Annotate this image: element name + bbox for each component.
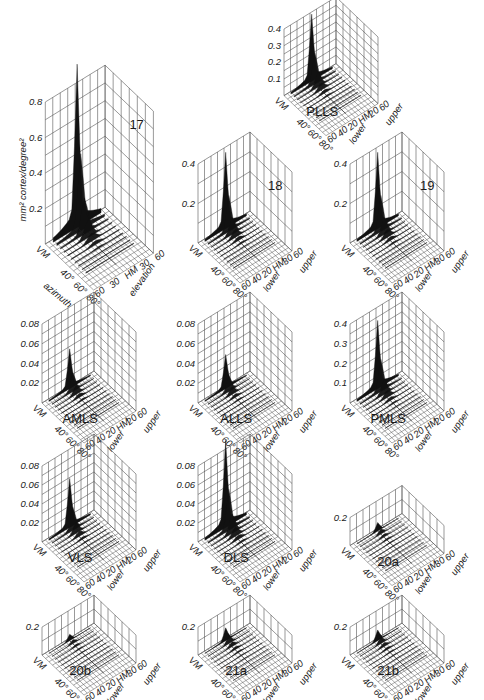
panel-title: PMLS bbox=[370, 411, 406, 426]
z-tick-label: 0.02 bbox=[21, 517, 40, 528]
vm-label: VM bbox=[339, 402, 357, 420]
z-tick-label: 0.1 bbox=[268, 73, 281, 84]
grid-lines bbox=[350, 292, 444, 411]
surface-plot-21b: 0.2VM40°60°80°6030HM204060upperlower21b bbox=[328, 590, 468, 695]
vm-label: VM bbox=[31, 654, 49, 672]
panel-title: AMLS bbox=[62, 411, 98, 426]
vm-label: VM bbox=[187, 654, 205, 672]
z-tick-label: 0.2 bbox=[29, 203, 43, 214]
vm-label: VM bbox=[31, 541, 49, 559]
panel-title: DLS bbox=[224, 550, 250, 565]
surface-plot-19: 0.20.4VM40°60°80°6030HM204060upperlower1… bbox=[328, 150, 468, 300]
z-tick-label: 0.2 bbox=[334, 621, 348, 632]
z-tick-label: 0.2 bbox=[334, 512, 348, 523]
y-axis-label: mm² cortex/degree² bbox=[17, 138, 28, 222]
z-tick-label: 0.3 bbox=[334, 338, 348, 349]
magnification-surface bbox=[205, 152, 275, 268]
panel-title: 21a bbox=[225, 663, 247, 678]
vm-label: VM bbox=[273, 95, 291, 113]
z-tick-label: 0.6 bbox=[29, 132, 43, 143]
z-tick-label: 0.08 bbox=[177, 318, 196, 329]
magnification-surface bbox=[357, 152, 427, 268]
azimuth-axis-label: azimuth bbox=[42, 280, 75, 310]
surface-plot-pmls: 0.10.20.30.4VM40°60°80°6020HM204060upper… bbox=[328, 310, 468, 460]
z-tick-label: 0.2 bbox=[334, 198, 348, 209]
vm-label: VM bbox=[187, 402, 205, 420]
vm-label: VM bbox=[339, 654, 357, 672]
z-tick-label: 0.02 bbox=[21, 377, 40, 388]
z-tick-label: 0.02 bbox=[177, 517, 196, 528]
grid-lines bbox=[42, 292, 136, 411]
z-tick-label: 0.08 bbox=[177, 460, 196, 471]
vm-label: VM bbox=[187, 541, 205, 559]
z-tick-label: 0.4 bbox=[334, 318, 347, 329]
magnification-surface bbox=[53, 64, 133, 273]
z-tick-label: 0.8 bbox=[29, 96, 43, 107]
surface-plot-21a: 0.2VM40°60°80°6030HM204060upperlower21a bbox=[176, 590, 316, 695]
vm-label: VM bbox=[187, 242, 205, 260]
vm-label: VM bbox=[34, 243, 52, 261]
z-tick-label: 0.2 bbox=[334, 358, 348, 369]
z-tick-label: 0.4 bbox=[334, 158, 347, 169]
z-tick-label: 0.4 bbox=[29, 167, 42, 178]
panel-title: VLS bbox=[68, 550, 93, 565]
grid-lines bbox=[42, 434, 136, 550]
z-tick-label: 0.04 bbox=[21, 358, 40, 369]
z-tick-label: 0.2 bbox=[182, 621, 196, 632]
z-tick-label: 0.3 bbox=[268, 40, 282, 51]
panel-title: 21b bbox=[377, 663, 399, 678]
panel-title: 20a bbox=[377, 554, 399, 569]
surface-plot-dls: 0.020.040.060.08VM40°60°80°6020HM204060u… bbox=[176, 452, 316, 597]
z-tick-label: 0.06 bbox=[21, 479, 40, 490]
z-tick-label: 0.2 bbox=[182, 198, 196, 209]
surface-plot-alls: 0.020.040.060.08VM40°60°80°6020HM204060u… bbox=[176, 310, 316, 460]
z-tick-label: 0.06 bbox=[177, 338, 196, 349]
z-tick-label: 0.4 bbox=[268, 23, 281, 34]
surface-plot-20b: 0.2VM40°60°80°6030HM204060upperlower20b bbox=[20, 590, 160, 695]
z-tick-label: 0.2 bbox=[26, 621, 40, 632]
z-tick-label: 0.08 bbox=[21, 318, 40, 329]
elevation-tick-label: 30 bbox=[107, 275, 123, 291]
z-tick-label: 0.06 bbox=[177, 479, 196, 490]
panel-title: 18 bbox=[268, 178, 282, 193]
z-tick-label: 0.2 bbox=[268, 56, 282, 67]
panel-title: 17 bbox=[129, 117, 143, 132]
vm-label: VM bbox=[339, 545, 357, 563]
z-tick-label: 0.02 bbox=[177, 377, 196, 388]
grid-lines bbox=[198, 292, 292, 411]
panel-title: 20b bbox=[69, 663, 91, 678]
surface-plot-plls: 0.10.20.30.4VM40°60°80°6020HM204060upper… bbox=[262, 15, 392, 145]
vm-label: VM bbox=[31, 402, 49, 420]
vm-label: VM bbox=[339, 242, 357, 260]
z-tick-label: 0.08 bbox=[21, 460, 40, 471]
panel-title: 19 bbox=[420, 178, 434, 193]
panel-title: ALLS bbox=[220, 411, 252, 426]
panel-title: PLLS bbox=[306, 104, 338, 119]
surface-plot-17: 0.20.40.60.8VM40°60°80°azimuth6030HM3060… bbox=[20, 92, 190, 282]
z-tick-label: 0.04 bbox=[177, 498, 196, 509]
z-tick-label: 0.06 bbox=[21, 338, 40, 349]
surface-plot-20a: 0.2VM40°60°80°6030HM204060upperlower20a bbox=[328, 468, 468, 593]
elevation-tick-label: 60 bbox=[152, 247, 168, 263]
azimuth-tick-label: 40° bbox=[58, 266, 76, 284]
z-tick-label: 0.1 bbox=[334, 377, 347, 388]
z-tick-label: 0.4 bbox=[182, 158, 195, 169]
z-tick-label: 0.04 bbox=[21, 498, 40, 509]
surface-plot-18: 0.20.4VM40°60°80°6030HM204060upperlower1… bbox=[176, 150, 316, 300]
surface-plot-amls: 0.020.040.060.08VM40°60°80°6020HM204060u… bbox=[20, 310, 160, 460]
surface-plot-vls: 0.020.040.060.08VM40°60°80°6020HM204060u… bbox=[20, 452, 160, 597]
z-tick-label: 0.04 bbox=[177, 358, 196, 369]
